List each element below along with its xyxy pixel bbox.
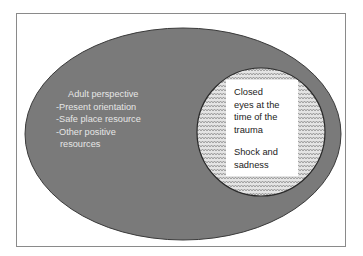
adult-perspective-label: Adult perspective -Present orientation -… (56, 88, 141, 151)
resource-item: -Safe place resource (56, 113, 141, 126)
resource-item: -Present orientation (56, 101, 141, 114)
emotion-line: Shock and (234, 146, 279, 159)
resource-item: resources (56, 138, 141, 151)
emotion-line: sadness (234, 159, 279, 172)
resource-item: -Other positive (56, 126, 141, 139)
trauma-line: Closed (234, 86, 279, 99)
trauma-line: eyes at the (234, 99, 279, 112)
adult-perspective-title: Adult perspective (56, 88, 141, 101)
trauma-line: trauma (234, 124, 279, 137)
trauma-line: time of the (234, 111, 279, 124)
diagram-shapes (0, 0, 363, 256)
trauma-text-box: Closed eyes at the time of the trauma Sh… (226, 80, 298, 176)
